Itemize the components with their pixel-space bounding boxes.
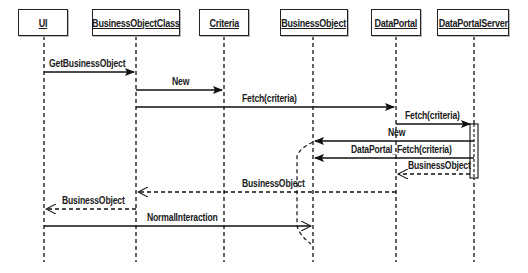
object-label-data-portal: DataPortal xyxy=(375,17,418,29)
label-fetch-criteria-dataportal: Fetch(criteria) xyxy=(242,93,297,104)
object-box-business-object-class: BusinessObjectClass xyxy=(92,9,180,36)
label-new-criteria: New xyxy=(172,76,189,87)
label-get-business-object: GetBusinessObject xyxy=(49,58,125,69)
label-return-business-object-ui: BusinessObject xyxy=(62,195,125,206)
object-box-business-object: BusinessObject xyxy=(280,9,348,36)
object-label-business-object-class: BusinessObjectClass xyxy=(92,17,179,29)
label-dataportal-fetch: DataPortal_Fetch(criteria) xyxy=(351,144,452,155)
object-label-ui: UI xyxy=(39,17,48,29)
label-fetch-criteria-server: Fetch(criteria) xyxy=(405,110,460,121)
object-box-ui: UI xyxy=(18,9,68,36)
object-label-criteria: Criteria xyxy=(209,17,239,29)
business-object-creation-curve xyxy=(297,142,313,244)
object-box-data-portal-server: DataPortalServer xyxy=(437,9,509,36)
object-box-criteria: Criteria xyxy=(199,9,249,36)
object-label-business-object: BusinessObject xyxy=(282,17,347,29)
diagram-lines xyxy=(0,0,528,273)
object-box-data-portal: DataPortal xyxy=(371,9,421,36)
label-new-business-object: New xyxy=(388,127,405,138)
label-return-business-object-dataportal: BusinessObject xyxy=(408,160,471,171)
object-label-data-portal-server: DataPortalServer xyxy=(438,17,507,29)
label-normal-interaction: NormalInteraction xyxy=(147,212,218,223)
sequence-diagram: UI BusinessObjectClass Criteria Business… xyxy=(0,0,528,273)
label-return-business-object-class: BusinessObject xyxy=(242,178,305,189)
